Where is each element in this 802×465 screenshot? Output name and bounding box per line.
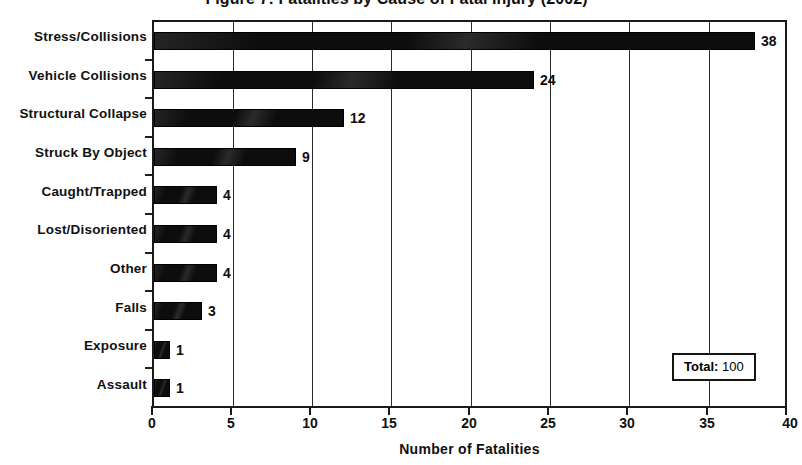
category-label-lost-disoriented: Lost/Disoriented	[0, 222, 147, 237]
x-axis-label-10: 10	[280, 415, 340, 431]
x-axis-tick-40	[785, 406, 787, 415]
bar-value-falls: 3	[208, 302, 216, 320]
bar-structural-collapse	[154, 109, 344, 127]
bar-vehicle-collisions	[154, 71, 534, 89]
bar-value-lost-disoriented: 4	[223, 225, 231, 243]
bar-falls	[154, 302, 202, 320]
category-label-assault: Assault	[0, 377, 147, 392]
x-axis-label-30: 30	[597, 415, 657, 431]
total-value: 100	[722, 359, 744, 374]
bar-lost-disoriented	[154, 225, 217, 243]
x-axis-tick-30	[626, 406, 628, 415]
x-axis-label-25: 25	[518, 415, 578, 431]
bar-stress-collisions	[154, 32, 755, 50]
x-axis-label-35: 35	[677, 415, 737, 431]
x-axis-tick-15	[388, 406, 390, 415]
x-axis-label-20: 20	[439, 415, 499, 431]
x-axis-label-5: 5	[201, 415, 261, 431]
category-label-structural-collapse: Structural Collapse	[0, 106, 147, 121]
category-label-stress-collisions: Stress/Collisions	[0, 29, 147, 44]
total-label: Total:	[684, 359, 718, 374]
bar-assault	[154, 379, 170, 397]
bar-value-caught-trapped: 4	[223, 186, 231, 204]
x-axis-tick-5	[230, 406, 232, 415]
category-label-falls: Falls	[0, 300, 147, 315]
x-axis-tick-0	[151, 406, 153, 415]
bar-value-structural-collapse: 12	[350, 109, 366, 127]
x-axis-label-15: 15	[359, 415, 419, 431]
bar-value-stress-collisions: 38	[761, 32, 777, 50]
x-axis-title: Number of Fatalities	[152, 441, 787, 457]
x-axis-label-0: 0	[122, 415, 182, 431]
chart-title: Figure 7: Fatalities by Cause of Fatal I…	[0, 0, 793, 8]
category-label-caught-trapped: Caught/Trapped	[0, 184, 147, 199]
bar-other	[154, 264, 217, 282]
x-axis-tick-20	[468, 406, 470, 415]
bar-value-exposure: 1	[176, 341, 184, 359]
category-label-exposure: Exposure	[0, 338, 147, 353]
category-label-other: Other	[0, 261, 147, 276]
bar-struck-by-object	[154, 148, 296, 166]
bar-value-assault: 1	[176, 379, 184, 397]
bar-value-struck-by-object: 9	[302, 148, 310, 166]
x-axis-tick-35	[706, 406, 708, 415]
bar-value-vehicle-collisions: 24	[540, 71, 556, 89]
plot-area: 38 24 12 9 4 4	[152, 20, 787, 408]
total-annotation-box: Total: 100	[672, 353, 756, 381]
bar-caught-trapped	[154, 186, 217, 204]
x-axis-label-40: 40	[760, 415, 802, 431]
bar-value-other: 4	[223, 264, 231, 282]
x-axis-tick-10	[309, 406, 311, 415]
x-axis-tick-25	[547, 406, 549, 415]
category-label-vehicle-collisions: Vehicle Collisions	[0, 68, 147, 83]
category-label-struck-by-object: Struck By Object	[0, 145, 147, 160]
bar-rows: 38 24 12 9 4 4	[154, 22, 785, 406]
bar-exposure	[154, 341, 170, 359]
